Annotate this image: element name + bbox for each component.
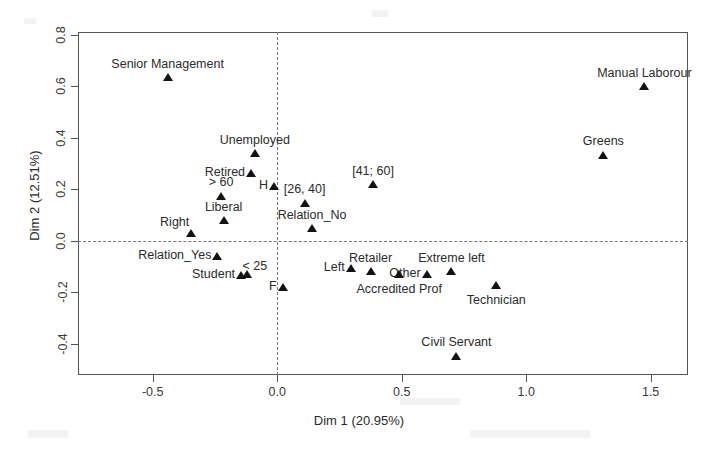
triangle-marker-icon [163, 73, 173, 81]
triangle-marker-icon [278, 283, 288, 291]
triangle-marker-icon [307, 224, 317, 232]
triangle-marker-icon [598, 151, 608, 159]
data-point-label: Greens [583, 135, 624, 148]
plot-area [78, 32, 688, 375]
triangle-marker-icon [639, 82, 649, 90]
triangle-marker-icon [394, 270, 404, 278]
scan-artifact [24, 18, 36, 24]
zero-line-vertical [277, 32, 278, 375]
triangle-marker-icon [216, 192, 226, 200]
x-axis-title: Dim 1 (20.95%) [0, 413, 718, 428]
triangle-marker-icon [422, 270, 432, 278]
y-tick-label: 0.4 [54, 129, 68, 146]
triangle-marker-icon [300, 199, 310, 207]
data-point-label: Senior Management [111, 58, 224, 71]
data-point-label: Civil Servant [421, 336, 491, 349]
y-tick-mark [71, 86, 78, 87]
triangle-marker-icon [246, 169, 256, 177]
triangle-marker-icon [368, 180, 378, 188]
x-tick-mark [153, 375, 154, 382]
x-tick-mark [651, 375, 652, 382]
y-tick-label: 0.6 [54, 77, 68, 94]
data-point-label: H [259, 179, 268, 192]
x-tick-mark [526, 375, 527, 382]
x-tick-label: 0.5 [393, 385, 410, 399]
y-tick-mark [71, 35, 78, 36]
data-point-label: > 60 [209, 176, 234, 189]
scan-artifact [400, 398, 460, 405]
data-point-label: Liberal [205, 201, 243, 214]
x-tick-label: 0.0 [268, 385, 285, 399]
x-tick-mark [402, 375, 403, 382]
scan-artifact [28, 430, 68, 438]
x-tick-label: 1.5 [642, 385, 659, 399]
y-tick-label: 0.0 [54, 232, 68, 249]
data-point-label: Relation_Yes [138, 249, 211, 262]
triangle-marker-icon [451, 352, 461, 360]
zero-line-horizontal [78, 241, 688, 242]
data-point-label: F [269, 280, 277, 293]
data-point-label: Student [192, 268, 235, 281]
x-tick-label: -0.5 [142, 385, 164, 399]
data-point-label: Accredited Prof [356, 283, 441, 296]
y-tick-mark [71, 344, 78, 345]
y-axis-title: Dim 2 (12.51%) [27, 96, 42, 296]
triangle-marker-icon [491, 281, 501, 289]
data-point-label: Retailer [349, 252, 392, 265]
y-tick-label: -0.4 [56, 333, 70, 355]
scatter-plot-figure: -0.50.00.51.01.5 -0.4-0.20.00.20.40.60.8… [0, 0, 718, 454]
data-point-label: < 25 [243, 260, 268, 273]
triangle-marker-icon [269, 182, 279, 190]
x-tick-mark [277, 375, 278, 382]
scan-artifact [470, 430, 590, 438]
x-tick-label: 1.0 [517, 385, 534, 399]
data-point-label: [41; 60] [352, 165, 394, 178]
triangle-marker-icon [446, 267, 456, 275]
data-point-label: Technician [467, 294, 526, 307]
data-point-label: Left [324, 261, 345, 274]
triangle-marker-icon [212, 252, 222, 260]
data-point-label: Relation_No [278, 209, 347, 222]
triangle-marker-icon [250, 149, 260, 157]
triangle-marker-icon [366, 267, 376, 275]
data-point-label: Unemployed [220, 134, 290, 147]
triangle-marker-icon [186, 229, 196, 237]
data-point-label: Extreme left [418, 252, 485, 265]
data-point-label: Right [160, 216, 189, 229]
triangle-marker-icon [236, 271, 246, 279]
data-point-label: Manual Laborour [597, 67, 692, 80]
triangle-marker-icon [219, 216, 229, 224]
y-tick-label: 0.2 [54, 181, 68, 198]
y-tick-mark [71, 292, 78, 293]
y-tick-mark [71, 241, 78, 242]
y-tick-label: 0.8 [54, 26, 68, 43]
scan-artifact [372, 10, 388, 17]
y-tick-label: -0.2 [56, 282, 70, 304]
data-point-label: [26, 40] [284, 183, 326, 196]
y-tick-mark [71, 138, 78, 139]
triangle-marker-icon [346, 264, 356, 272]
y-tick-mark [71, 189, 78, 190]
